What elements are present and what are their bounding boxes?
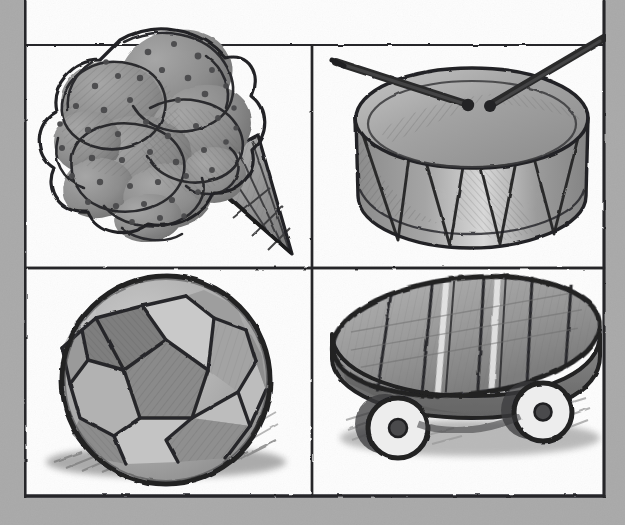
soccer-ball: [62, 276, 270, 484]
sketch-canvas: [0, 0, 625, 525]
ball-panels: [62, 290, 266, 464]
wheel-front: [501, 381, 572, 441]
sketch-page: Toys and Treats Sketch Grid Ice cream co…: [0, 0, 625, 525]
